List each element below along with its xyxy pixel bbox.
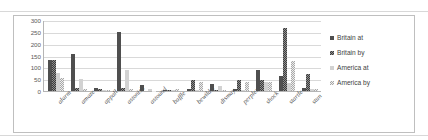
x-axis-tick-label: baffle bbox=[171, 89, 187, 105]
bar-group bbox=[229, 21, 252, 91]
bar-group bbox=[206, 21, 229, 91]
bar-group bbox=[114, 21, 137, 91]
bar bbox=[314, 89, 318, 91]
x-axis-tick-label: stun bbox=[310, 92, 323, 105]
bar-group-bars bbox=[253, 21, 276, 91]
bar-group-bars bbox=[114, 21, 137, 91]
bar-group-bars bbox=[90, 21, 113, 91]
chart-figure: 050100150200250300alarmamazeappallastoni… bbox=[0, 0, 428, 140]
bar-group bbox=[253, 21, 276, 91]
bar bbox=[268, 82, 272, 91]
bar-group bbox=[299, 21, 322, 91]
bar-plot: 050100150200250300alarmamazeappallastoni… bbox=[43, 21, 321, 92]
legend-swatch-icon bbox=[330, 81, 334, 85]
bar-group-bars bbox=[299, 21, 322, 91]
legend-item-america-at[interactable]: America at bbox=[330, 60, 414, 75]
clipped-caption bbox=[0, 0, 428, 10]
legend-item-britain-by[interactable]: Britain by bbox=[330, 45, 414, 60]
x-axis-tick-label: alarm bbox=[56, 89, 72, 105]
bar-group bbox=[67, 21, 90, 91]
y-axis-tick-label: 200 bbox=[31, 42, 41, 48]
bar-group-bars bbox=[67, 21, 90, 91]
legend-item-label: America at bbox=[337, 64, 369, 71]
bar-group bbox=[44, 21, 67, 91]
bar-group bbox=[160, 21, 183, 91]
bar-group-bars bbox=[44, 21, 67, 91]
bar bbox=[83, 89, 87, 91]
top-divider bbox=[0, 11, 428, 12]
bottom-divider bbox=[0, 135, 428, 136]
bar-group-bars bbox=[276, 21, 299, 91]
bar bbox=[245, 82, 249, 91]
bar-group bbox=[137, 21, 160, 91]
bar-group-bars bbox=[183, 21, 206, 91]
bar bbox=[222, 90, 226, 91]
legend-item-britain-at[interactable]: Britain at bbox=[330, 30, 414, 45]
y-axis-tick-label: 300 bbox=[31, 18, 41, 24]
y-axis-tick-label: 100 bbox=[31, 65, 41, 71]
legend-item-label: Britain at bbox=[337, 34, 363, 41]
y-axis-tick-label: 50 bbox=[34, 77, 41, 83]
legend-swatch-icon bbox=[330, 51, 334, 55]
bar-group-bars bbox=[160, 21, 183, 91]
legend-item-america-by[interactable]: America by bbox=[330, 75, 414, 90]
bar-group bbox=[276, 21, 299, 91]
bar-group-bars bbox=[206, 21, 229, 91]
bar bbox=[199, 82, 203, 91]
bar-group bbox=[90, 21, 113, 91]
chart-plot-area: 050100150200250300alarmamazeappallastoni… bbox=[13, 15, 415, 133]
bar bbox=[283, 28, 287, 91]
bar bbox=[71, 54, 75, 91]
x-axis-tick-label: shock bbox=[264, 89, 280, 105]
legend-item-label: Britain by bbox=[337, 49, 365, 56]
legend-item-label: America by bbox=[337, 79, 370, 86]
y-axis-tick-label: 250 bbox=[31, 30, 41, 36]
bar-group-bars bbox=[229, 21, 252, 91]
bar-group bbox=[183, 21, 206, 91]
y-axis-tick-label: 0 bbox=[38, 89, 41, 95]
chart-legend: Britain atBritain byAmerica atAmerica by bbox=[330, 30, 414, 90]
y-axis-tick-label: 150 bbox=[31, 53, 41, 59]
bar bbox=[291, 61, 295, 91]
bar-group-bars bbox=[137, 21, 160, 91]
legend-swatch-icon bbox=[330, 36, 334, 40]
bar bbox=[60, 78, 64, 91]
legend-swatch-icon bbox=[330, 66, 334, 70]
bar bbox=[117, 32, 121, 91]
bar bbox=[140, 85, 144, 91]
